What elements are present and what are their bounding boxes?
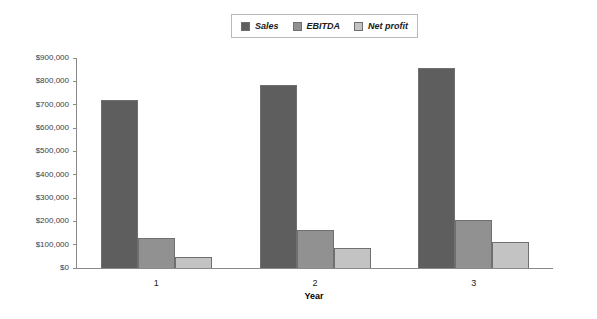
y-axis-tick: $0	[60, 264, 77, 272]
y-axis-tick: $900,000	[36, 54, 77, 62]
y-axis-tick-label: $200,000	[36, 217, 73, 225]
bar-groups: 123	[77, 58, 553, 268]
y-axis-tick: $400,000	[36, 171, 77, 179]
y-axis-tick: $800,000	[36, 77, 77, 85]
x-axis-title: Year	[76, 292, 552, 301]
legend-item-ebitda[interactable]: EBITDA	[293, 22, 341, 31]
y-axis-tick: $500,000	[36, 147, 77, 155]
x-axis-tick-label: 2	[312, 279, 317, 288]
plot-area: $900,000$800,000$700,000$600,000$500,000…	[76, 58, 553, 269]
bar-ebitda-year-1[interactable]	[138, 238, 175, 268]
legend-label-net-profit: Net profit	[368, 22, 408, 31]
bar-group: 3	[394, 58, 553, 268]
bar-sales-year-1[interactable]	[101, 100, 138, 268]
y-axis-tick-label: $700,000	[36, 101, 73, 109]
legend-swatch-sales	[241, 22, 250, 31]
y-axis-tick-label: $300,000	[36, 194, 73, 202]
y-axis-tick-label: $600,000	[36, 124, 73, 132]
bar-group: 1	[77, 58, 236, 268]
bar-ebitda-year-2[interactable]	[297, 230, 334, 268]
y-axis-tick: $100,000	[36, 241, 77, 249]
legend-item-net-profit[interactable]: Net profit	[354, 22, 408, 31]
bar-net-profit-year-2[interactable]	[334, 248, 371, 268]
x-axis-tick-label: 3	[471, 279, 476, 288]
bar-sales-year-2[interactable]	[260, 85, 297, 268]
bar-ebitda-year-3[interactable]	[455, 220, 492, 268]
chart-legend: Sales EBITDA Net profit	[231, 14, 418, 38]
y-axis-tick-label: $100,000	[36, 241, 73, 249]
y-axis-tick: $200,000	[36, 217, 77, 225]
bar-chart: Sales EBITDA Net profit $900,000$800,000…	[0, 0, 597, 319]
legend-swatch-ebitda	[293, 22, 302, 31]
y-axis-tick-label: $900,000	[36, 54, 73, 62]
bar-net-profit-year-3[interactable]	[492, 242, 529, 268]
y-axis-tick: $700,000	[36, 101, 77, 109]
y-axis-tick-label: $800,000	[36, 77, 73, 85]
y-axis-tick: $300,000	[36, 194, 77, 202]
x-axis-tick-label: 1	[154, 279, 159, 288]
bar-net-profit-year-1[interactable]	[175, 257, 212, 268]
bar-group: 2	[236, 58, 395, 268]
y-axis-tick-label: $500,000	[36, 147, 73, 155]
legend-item-sales[interactable]: Sales	[241, 22, 279, 31]
y-axis-tick-label: $400,000	[36, 171, 73, 179]
y-axis-tick-label: $0	[60, 264, 73, 272]
legend-swatch-net-profit	[354, 22, 363, 31]
legend-label-sales: Sales	[255, 22, 279, 31]
bar-sales-year-3[interactable]	[418, 68, 455, 268]
y-axis-tick: $600,000	[36, 124, 77, 132]
legend-label-ebitda: EBITDA	[307, 22, 341, 31]
